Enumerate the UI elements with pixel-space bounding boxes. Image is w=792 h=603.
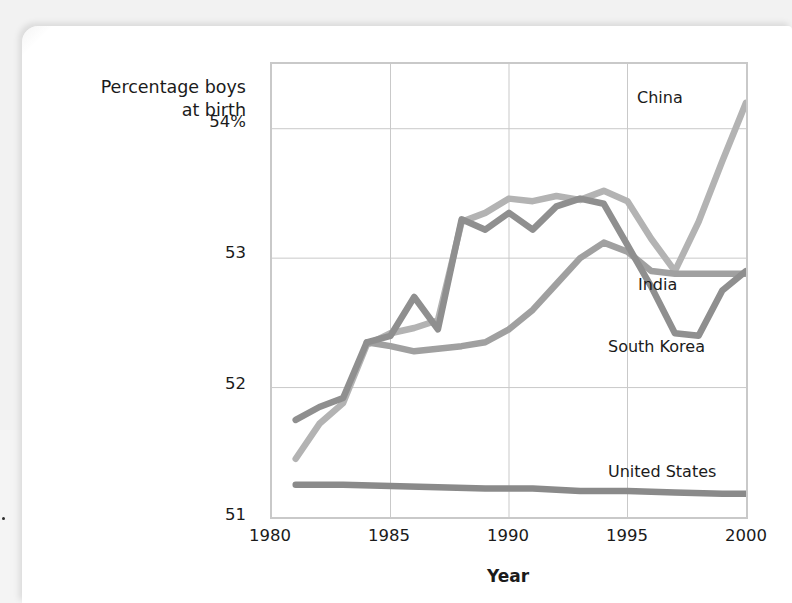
series-label-south-korea: South Korea [608,337,705,356]
series-label-china: China [637,88,683,107]
y-axis-title-line1: Percentage boys [46,76,246,99]
page-background: Percentage boys at birth 54% 53 52 51 19… [0,0,792,603]
x-tick-label-1985: 1985 [344,526,434,545]
x-tick-label-1995: 1995 [582,526,672,545]
series-line-united-states [296,485,746,494]
series-label-india: India [638,275,677,294]
y-tick-label-53: 53 [176,243,246,262]
x-tick-label-1990: 1990 [463,526,553,545]
y-tick-label-54: 54% [176,112,246,131]
series-line-south-korea [296,199,746,420]
x-axis-label: Year [428,566,588,586]
y-tick-label-51: 51 [176,505,246,524]
x-tick-label-2000: 2000 [701,526,791,545]
y-tick-label-52: 52 [176,374,246,393]
series-lines [296,103,746,494]
x-tick-label-1980: 1980 [225,526,315,545]
series-line-china [296,103,746,459]
scan-speck [2,517,5,520]
series-label-united-states: United States [608,462,716,481]
